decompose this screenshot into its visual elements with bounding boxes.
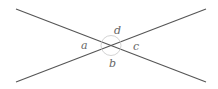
angle-label-d: d (114, 24, 121, 37)
angle-label-c: c (133, 40, 139, 53)
intersecting-lines-diagram: d a c b (0, 0, 218, 89)
angle-label-a: a (81, 39, 88, 52)
angle-label-b: b (109, 57, 116, 70)
